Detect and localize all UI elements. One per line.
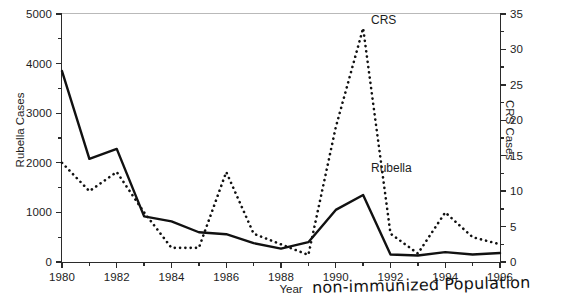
y-axis-right-tick-label: 5 [510,221,517,233]
y-axis-right-tick-label: 0 [510,256,517,268]
y-axis-right-minor-tick [500,208,504,209]
x-axis-major-tick [61,262,62,268]
x-axis-tick-label: 1986 [213,271,239,283]
x-axis-minor-tick [472,262,473,266]
y-axis-right-tick-label: 10 [510,185,523,197]
y-axis-left-tick-label: 2000 [0,157,52,169]
y-axis-left-tick-label: 0 [0,256,52,268]
x-axis-minor-tick [362,262,363,266]
y-axis-right-major-tick [500,226,506,227]
x-axis-major-tick [280,262,281,268]
data-series-svg [62,14,500,262]
x-axis-tick-label: 1984 [159,271,185,283]
x-axis-minor-tick [89,262,90,266]
x-axis-tick-label: 1982 [104,271,130,283]
y-axis-left-tick-label: 3000 [0,107,52,119]
x-axis-tick-label: 1980 [49,271,75,283]
series-label-rubella: Rubella [371,161,412,175]
y-axis-right-title: CRS Cases [504,85,516,175]
y-axis-left-tick-label: 4000 [0,58,52,70]
rubella-crs-chart-figure: 500040003000200010000 35302520151050 198… [0,0,562,306]
y-axis-left-tick-label: 5000 [0,8,52,20]
x-axis-major-tick [445,262,446,268]
x-axis-major-tick [116,262,117,268]
y-axis-right-major-tick [500,261,506,262]
y-axis-right-tick-label: 30 [510,43,523,55]
plot-area [62,14,500,262]
y-axis-left-title: Rubella Cases [14,85,26,175]
x-axis-minor-tick [198,262,199,266]
series-label-crs: CRS [371,13,396,27]
x-axis-minor-tick [143,262,144,266]
x-axis-title: Year [268,283,314,295]
series-crs-dotted-line [62,28,500,255]
y-axis-right-tick-label: 35 [510,8,523,20]
y-axis-right-major-tick [500,49,506,50]
x-axis-major-tick [390,262,391,268]
handwritten-annotation: non-immunized Population [312,273,531,297]
y-axis-right-minor-tick [500,244,504,245]
x-axis-major-tick [335,262,336,268]
x-axis-minor-tick [253,262,254,266]
y-axis-right-minor-tick [500,66,504,67]
x-axis-major-tick [171,262,172,268]
y-axis-right-major-tick [500,190,506,191]
y-axis-right-major-tick [500,13,506,14]
x-axis-major-tick [226,262,227,268]
y-axis-right-minor-tick [500,31,504,32]
x-axis-major-tick [499,262,500,268]
x-axis-minor-tick [417,262,418,266]
x-axis-minor-tick [308,262,309,266]
x-axis-tick-label: 1988 [268,271,294,283]
y-axis-left-tick-label: 1000 [0,206,52,218]
